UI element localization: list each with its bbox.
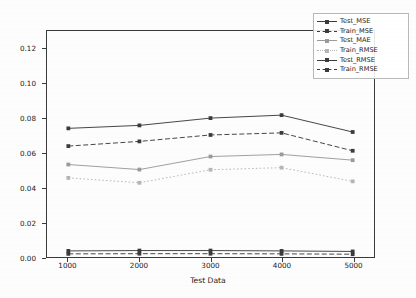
y-tick-mark	[42, 48, 46, 49]
legend-item-train_rmse: Train_RMSE	[317, 46, 404, 56]
data-point-marker	[351, 158, 355, 162]
data-point-marker	[66, 126, 70, 130]
data-point-marker	[280, 153, 284, 157]
data-point-marker	[138, 140, 142, 144]
legend-label: Test_MAE	[340, 36, 371, 45]
legend-swatch-icon	[317, 17, 337, 26]
series-train_mse	[66, 131, 354, 153]
x-tick-mark	[282, 258, 283, 262]
x-tick-label: 4000	[273, 261, 291, 270]
y-tick-label: 0.12	[20, 43, 36, 52]
data-point-marker	[66, 176, 70, 180]
y-tick-mark	[42, 223, 46, 224]
data-point-marker	[138, 168, 142, 172]
data-point-marker	[66, 163, 70, 167]
legend-label: Test_RMSE	[340, 56, 375, 65]
x-tick-label: 1000	[58, 261, 76, 270]
data-point-marker	[209, 155, 213, 159]
y-tick-label: 0.04	[20, 183, 36, 192]
chart-legend: Test_MSETrain_MSETest_MAETrain_RMSETest_…	[313, 13, 409, 79]
legend-item-train_rmse: Train_RMSE	[317, 65, 404, 75]
y-tick-label: 0.02	[20, 218, 36, 227]
x-tick-label: 3000	[201, 261, 219, 270]
data-point-marker	[280, 113, 284, 117]
data-point-marker	[351, 179, 355, 183]
data-point-marker	[280, 252, 284, 256]
data-point-marker	[209, 116, 213, 120]
data-point-marker	[351, 149, 355, 153]
data-point-marker	[66, 252, 70, 256]
data-point-marker	[138, 252, 142, 256]
legend-label: Train_MSE	[340, 27, 373, 36]
series-train_rmse	[66, 252, 354, 256]
legend-swatch-icon	[317, 56, 337, 65]
x-tick-label: 2000	[130, 261, 148, 270]
y-tick-mark	[42, 258, 46, 259]
data-point-marker	[351, 252, 355, 256]
legend-swatch-icon	[317, 46, 337, 55]
legend-label: Train_RMSE	[340, 65, 378, 74]
legend-item-train_mse: Train_MSE	[317, 27, 404, 37]
y-tick-label: 0.10	[20, 78, 36, 87]
y-axis-label: Performance	[0, 97, 1, 144]
y-tick-label: 0.08	[20, 113, 36, 122]
y-tick-mark	[42, 153, 46, 154]
y-tick-label: 0.00	[20, 254, 36, 263]
data-point-marker	[66, 144, 70, 148]
legend-label: Test_MSE	[340, 17, 370, 26]
x-tick-mark	[211, 258, 212, 262]
data-point-marker	[209, 168, 213, 172]
x-tick-mark	[67, 258, 68, 262]
legend-swatch-icon	[317, 36, 337, 45]
data-point-marker	[138, 124, 142, 128]
legend-label: Train_RMSE	[340, 46, 378, 55]
performance-line-chart: 0.000.020.040.060.080.100.12 10002000300…	[0, 0, 416, 298]
x-tick-mark	[139, 258, 140, 262]
x-tick-label: 5000	[344, 261, 362, 270]
series-train_rmse	[66, 166, 354, 185]
legend-swatch-icon	[317, 65, 337, 74]
y-tick-mark	[42, 188, 46, 189]
data-point-marker	[280, 131, 284, 135]
legend-swatch-icon	[317, 27, 337, 36]
legend-item-test_mae: Test_MAE	[317, 36, 404, 46]
data-point-marker	[351, 130, 355, 134]
legend-item-test_rmse: Test_RMSE	[317, 55, 404, 65]
x-axis-label: Test Data	[0, 276, 416, 285]
y-tick-mark	[42, 83, 46, 84]
series-test_mse	[66, 113, 354, 134]
y-tick-mark	[42, 118, 46, 119]
data-point-marker	[209, 252, 213, 256]
data-point-marker	[280, 166, 284, 170]
data-point-marker	[209, 133, 213, 137]
y-tick-label: 0.06	[20, 148, 36, 157]
x-tick-mark	[354, 258, 355, 262]
legend-item-test_mse: Test_MSE	[317, 17, 404, 27]
data-point-marker	[138, 181, 142, 185]
